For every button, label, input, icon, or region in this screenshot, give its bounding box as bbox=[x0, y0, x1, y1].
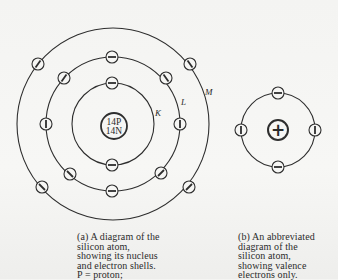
shell-m-label: M bbox=[204, 87, 213, 97]
electron-icon bbox=[36, 181, 48, 193]
electron-icon bbox=[32, 58, 44, 70]
valence-electron-icon bbox=[235, 124, 247, 136]
electron-icon bbox=[174, 118, 186, 130]
valence-electron-icon bbox=[272, 87, 284, 99]
shell-l-label: L bbox=[180, 97, 186, 107]
electron-icon bbox=[160, 72, 172, 84]
electron-icon bbox=[155, 167, 167, 179]
caption-b: (b) An abbreviated diagram of the silico… bbox=[238, 232, 338, 280]
nucleus-b: + bbox=[268, 120, 288, 140]
nucleus-neutrons-label: 14N bbox=[106, 126, 123, 136]
electron-icon bbox=[64, 168, 76, 180]
electron-icon bbox=[106, 51, 118, 63]
electron-icon bbox=[184, 58, 196, 70]
electron-icon bbox=[183, 181, 195, 193]
electron-icon bbox=[40, 118, 52, 130]
electron-icon bbox=[106, 159, 118, 171]
valence-electron-icon bbox=[309, 124, 321, 136]
caption-a: (a) A diagram of the silicon atom, showi… bbox=[77, 232, 187, 280]
shell-k-label: K bbox=[154, 108, 162, 118]
electron-icon bbox=[106, 185, 118, 197]
electron-icon bbox=[106, 77, 118, 89]
nucleus-plus-symbol: + bbox=[271, 120, 285, 140]
valence-electron-icon bbox=[272, 161, 284, 173]
electron-icon bbox=[58, 72, 70, 84]
